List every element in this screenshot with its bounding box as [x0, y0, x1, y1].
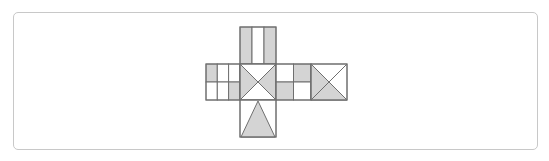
face-left: [206, 64, 240, 100]
cube-net-diagram: [0, 0, 549, 161]
face-bottom: [240, 100, 276, 137]
face-top: [240, 27, 276, 64]
face-far-right: [311, 64, 347, 100]
face-center-right: [276, 64, 311, 100]
face-center: [240, 64, 276, 100]
